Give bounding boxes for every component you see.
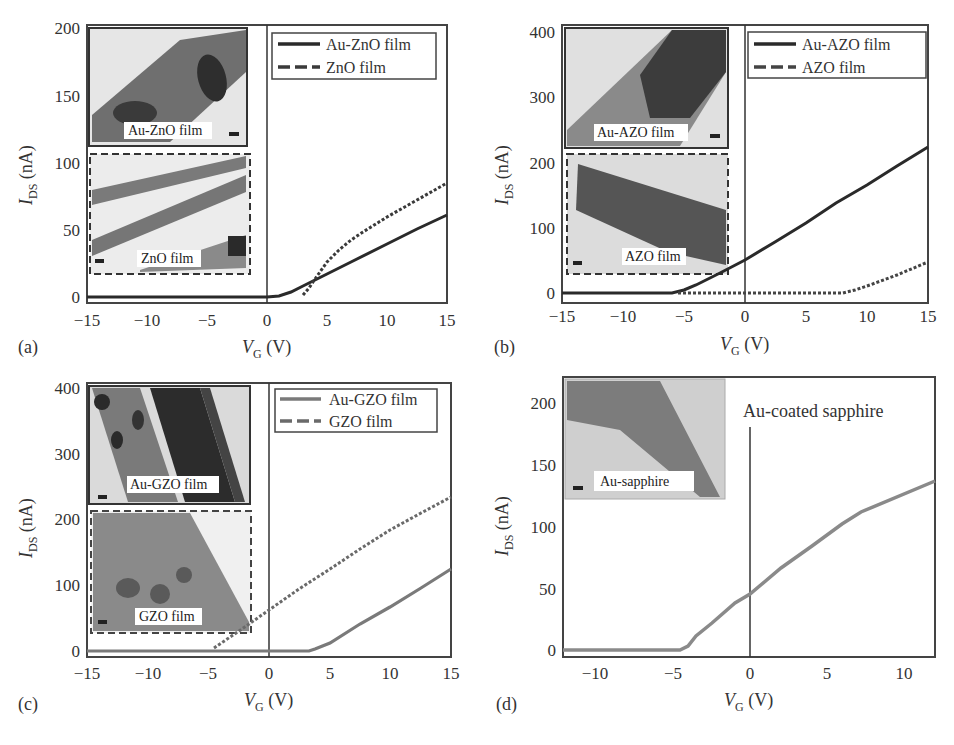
legend: Au-GZO film GZO film <box>275 389 437 432</box>
y-axis: 0 100 200 300 400 <box>55 379 81 661</box>
svg-text:−10: −10 <box>135 664 162 683</box>
y-axis: 0 100 200 300 400 <box>530 23 556 303</box>
inset-image-gzo: GZO film <box>91 511 251 633</box>
svg-text:10: 10 <box>896 664 913 683</box>
panel-tag: (d) <box>496 694 517 715</box>
svg-text:−5: −5 <box>675 307 693 326</box>
svg-text:0: 0 <box>72 288 81 307</box>
panel-tag: (b) <box>494 337 515 358</box>
panel-tag: (a) <box>18 337 38 358</box>
svg-text:200: 200 <box>531 394 557 413</box>
y-axis: 0 50 100 150 200 <box>531 394 557 660</box>
svg-text:100: 100 <box>530 219 556 238</box>
panel-tag: (c) <box>18 694 38 715</box>
legend-label: Au-ZnO film <box>326 36 411 53</box>
svg-text:200: 200 <box>55 19 81 38</box>
figure: Au-ZnO film ZnO film Au-ZnO film ZnO fil… <box>0 0 954 745</box>
inset-label: Au-sapphire <box>600 474 669 489</box>
svg-text:5: 5 <box>326 664 335 683</box>
legend: Au-AZO film AZO film <box>748 32 926 78</box>
inset-image-au-sapphire: Au-sapphire <box>565 379 725 499</box>
inset-label: Au-GZO film <box>130 477 207 492</box>
svg-text:400: 400 <box>530 23 556 42</box>
svg-text:−5: −5 <box>198 311 216 330</box>
svg-text:0: 0 <box>547 284 556 303</box>
svg-text:−10: −10 <box>134 311 161 330</box>
x-axis: −15 −10 −5 0 5 10 15 <box>74 664 460 683</box>
svg-text:10: 10 <box>859 307 876 326</box>
panel-a: Au-ZnO film ZnO film Au-ZnO film ZnO fil… <box>16 19 456 361</box>
inset-image-azo: AZO film <box>567 154 728 274</box>
panel-d: Au-sapphire Au-coated sapphire 0 50 100 … <box>492 377 935 715</box>
svg-text:150: 150 <box>531 456 557 475</box>
svg-text:0: 0 <box>263 311 272 330</box>
x-axis: −15 −10 −5 0 5 10 15 <box>74 311 456 330</box>
legend-label: ZnO film <box>326 59 387 76</box>
x-axis-label: VG (V) <box>724 690 773 714</box>
inset-label: ZnO film <box>141 251 194 266</box>
svg-text:−10: −10 <box>582 664 609 683</box>
inset-image-au-azo: Au-AZO film <box>565 28 728 148</box>
svg-text:5: 5 <box>823 664 832 683</box>
legend: Au-ZnO film ZnO film <box>272 33 436 79</box>
svg-text:10: 10 <box>379 311 396 330</box>
svg-text:0: 0 <box>746 664 755 683</box>
svg-text:100: 100 <box>55 154 81 173</box>
svg-text:−15: −15 <box>74 664 101 683</box>
annotation: Au-coated sapphire <box>743 401 883 421</box>
y-axis-label: IDS (nA) <box>492 496 516 557</box>
svg-text:100: 100 <box>531 518 557 537</box>
inset-image-au-gzo: Au-GZO film <box>89 386 250 504</box>
svg-text:−10: −10 <box>610 307 637 326</box>
svg-text:300: 300 <box>530 88 556 107</box>
panel-c: Au-GZO film GZO film Au-GZO film GZO fil… <box>16 379 460 715</box>
svg-text:100: 100 <box>55 576 81 595</box>
svg-text:15: 15 <box>443 664 460 683</box>
svg-text:15: 15 <box>920 307 937 326</box>
x-axis: −15 −10 −5 0 5 10 15 <box>549 307 937 326</box>
legend-label: GZO film <box>329 413 393 430</box>
svg-text:5: 5 <box>802 307 811 326</box>
svg-text:0: 0 <box>265 664 274 683</box>
svg-text:10: 10 <box>382 664 399 683</box>
svg-text:−5: −5 <box>199 664 217 683</box>
y-axis-label: IDS (nA) <box>16 145 40 206</box>
svg-text:−15: −15 <box>74 311 101 330</box>
svg-text:15: 15 <box>439 311 456 330</box>
y-axis-label: IDS (nA) <box>492 145 516 206</box>
svg-text:200: 200 <box>55 510 81 529</box>
panel-b: Au-AZO film AZO film Au-AZO film AZO fil… <box>492 23 937 358</box>
svg-text:5: 5 <box>323 311 332 330</box>
svg-text:−5: −5 <box>664 664 682 683</box>
inset-image-zno: ZnO film <box>90 154 250 274</box>
svg-text:50: 50 <box>63 221 80 240</box>
legend-label: Au-GZO film <box>329 391 418 408</box>
svg-text:50: 50 <box>539 580 556 599</box>
svg-text:400: 400 <box>55 379 81 398</box>
svg-text:0: 0 <box>548 641 557 660</box>
svg-text:0: 0 <box>72 642 81 661</box>
svg-text:−15: −15 <box>549 307 576 326</box>
legend-label: AZO film <box>802 59 866 76</box>
svg-text:150: 150 <box>55 87 81 106</box>
svg-text:0: 0 <box>741 307 750 326</box>
x-axis-label: VG (V) <box>242 337 291 361</box>
inset-label: AZO film <box>625 249 681 264</box>
svg-text:300: 300 <box>55 445 81 464</box>
inset-label: GZO film <box>139 609 195 624</box>
x-axis-label: VG (V) <box>720 334 769 358</box>
y-axis: 0 50 100 150 200 <box>55 19 81 307</box>
x-axis: −10 −5 0 5 10 <box>582 664 913 683</box>
svg-text:200: 200 <box>530 154 556 173</box>
y-axis-label: IDS (nA) <box>16 498 40 559</box>
x-axis-label: VG (V) <box>244 690 293 714</box>
legend-label: Au-AZO film <box>802 36 891 53</box>
inset-label: Au-ZnO film <box>128 123 202 138</box>
inset-image-au-zno: Au-ZnO film <box>89 28 247 146</box>
inset-label: Au-AZO film <box>597 125 674 140</box>
